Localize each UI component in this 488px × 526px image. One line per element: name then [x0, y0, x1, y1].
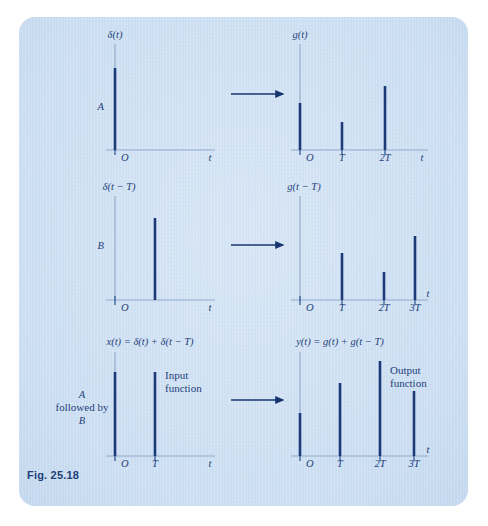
tick-label-origin: O [121, 302, 129, 313]
tick-label-2T: 2T [378, 302, 390, 313]
tick-label-origin: O [121, 458, 129, 469]
x-axis-label: t [209, 458, 213, 469]
chart-title: δ(t − T) [103, 181, 136, 193]
chart-title: y(t) = g(t) + g(t − T) [295, 336, 384, 348]
chart-delta-t: δ(t) A O t [97, 29, 215, 163]
tick-label-T: T [152, 458, 159, 469]
figure-svg: δ(t) A O t g(t) O T 2T t δ(t [0, 0, 488, 526]
amplitude-label-line1: A [78, 389, 86, 400]
tick-label-3T: 3T [407, 458, 420, 469]
x-axis-label: t [421, 152, 425, 163]
x-axis-label: t [427, 288, 431, 299]
tick-label-2T: 2T [374, 458, 386, 469]
tick-label-origin: O [306, 152, 314, 163]
amplitude-label-line2: followed by [56, 401, 109, 413]
chart-g-t-minus-T: g(t − T) O T 2T 3T t [287, 181, 430, 313]
tick-label-T: T [339, 302, 346, 313]
amplitude-label: B [98, 240, 105, 251]
amplitude-label-line3: B [79, 415, 86, 426]
tick-label-origin: O [121, 152, 129, 163]
chart-g-t: g(t) O T 2T t [291, 29, 428, 163]
figure-caption: Fig. 25.18 [27, 469, 79, 481]
input-function-note-line2: function [165, 382, 202, 394]
x-axis-label: t [209, 152, 213, 163]
tick-label-T: T [337, 458, 344, 469]
figure-root: δ(t) A O t g(t) O T 2T t δ(t [0, 0, 488, 526]
chart-title: g(t) [292, 29, 308, 41]
input-function-note-line1: Input [165, 369, 188, 381]
output-function-note-line1: Output [390, 364, 421, 376]
chart-title: x(t) = δ(t) + δ(t − T) [106, 336, 195, 348]
tick-label-T: T [339, 152, 346, 163]
chart-title: g(t − T) [287, 181, 321, 193]
tick-label-origin: O [306, 302, 314, 313]
tick-label-2T: 2T [379, 152, 391, 163]
tick-label-3T: 3T [408, 302, 421, 313]
output-function-note-line2: function [390, 377, 427, 389]
tick-label-origin: O [306, 458, 314, 469]
chart-x-of-t: x(t) = δ(t) + δ(t − T) A followed by B I… [56, 336, 215, 469]
chart-delta-t-minus-T: δ(t − T) B O t [98, 181, 215, 313]
amplitude-label: A [97, 101, 105, 112]
chart-y-of-t: y(t) = g(t) + g(t − T) Output function O… [291, 336, 431, 469]
chart-title: δ(t) [108, 29, 123, 41]
x-axis-label: t [209, 302, 213, 313]
x-axis-label: t [427, 444, 431, 455]
